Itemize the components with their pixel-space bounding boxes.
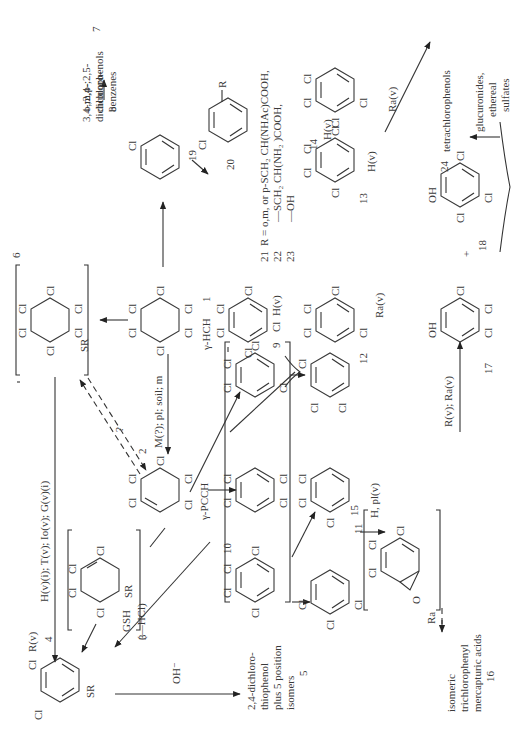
atom-cl: Cl	[214, 328, 226, 338]
text-line: sulfates	[499, 78, 511, 112]
compound-number: 22	[271, 251, 283, 262]
bracket-right	[436, 510, 440, 610]
atom-cl: Cl	[357, 328, 369, 338]
bracket-left	[68, 530, 72, 630]
compound-number: 20	[224, 159, 236, 171]
atom-cl: Cl	[44, 286, 56, 296]
atom-cl: Cl	[454, 213, 466, 223]
atom-cl: Cl	[357, 98, 369, 108]
benzene-ring-icon	[316, 68, 354, 112]
arrow-19-to-20	[192, 160, 208, 174]
plus-sign: +	[460, 251, 472, 257]
compound-number: 15	[348, 505, 360, 517]
benzene-ring-icon	[236, 468, 274, 512]
compound-1-gamma-hch: Cl Cl Cl Cl Cl Cl γ-HCH 1	[126, 286, 212, 356]
atom-r: R	[216, 80, 228, 88]
atom-cl: Cl	[32, 710, 44, 720]
pathway-canvas: Cl Cl Cl Cl Cl Cl γ-HCH 1 Cl Cl Cl Cl Cl…	[0, 0, 530, 732]
compound-number: 2	[136, 449, 148, 455]
atom-sr: SR	[122, 584, 134, 598]
brace-icon	[500, 122, 510, 252]
cyclohexane-ring-icon	[31, 298, 69, 342]
text-line: dichlorophenols	[93, 51, 105, 122]
compound-6: Cl Cl Cl Cl Cl Cl 6	[10, 252, 88, 382]
line-2-to-3	[150, 528, 165, 547]
dashed-arrow-2-6-a	[80, 380, 140, 474]
arene-oxide-ring-icon	[381, 538, 419, 582]
compound-number: 12	[357, 353, 369, 364]
reaction-label: H(v)	[365, 151, 378, 172]
text-line: mercapturic acids	[471, 634, 483, 712]
cyclohexene-ring-icon	[81, 558, 119, 602]
atom-cl: Cl	[221, 498, 233, 508]
atom-cl: Cl	[277, 474, 289, 484]
benzene-ring-icon	[311, 353, 349, 397]
atom-cl: Cl	[482, 328, 494, 338]
atom-cl: Cl	[126, 474, 138, 484]
atom-cl: Cl	[126, 498, 138, 508]
atom-oh: OH	[426, 187, 438, 203]
arrow-10c-to-11	[292, 512, 315, 557]
r-definitions: 21 R = o,m, or p-SCH₂ CH(NHAc)COOH, 22 —…	[258, 70, 296, 262]
compound-2-gamma-pcch: Cl Cl Cl Cl Cl γ-PCCH 2	[126, 449, 210, 522]
atom-cl: Cl	[301, 328, 313, 338]
compound-number: 4	[42, 636, 54, 642]
atom-cl: Cl	[296, 359, 308, 369]
atom-o: O	[410, 596, 422, 604]
compound-number: 23	[284, 251, 296, 263]
atom-cl: Cl	[329, 188, 341, 198]
compound-number: 19	[186, 150, 198, 162]
text-line: thiophenol	[258, 663, 270, 710]
atom-cl: Cl	[249, 608, 261, 618]
atom-oh: OH	[426, 322, 438, 338]
reaction-label: R(v)	[26, 632, 39, 653]
compound-number: 18	[476, 240, 488, 252]
dashed-arrow-2-6-b	[88, 378, 146, 470]
benzene-ring-icon	[311, 468, 349, 512]
reaction-label: H(v)(i); T(v); Io(v); G(v)(i)	[38, 481, 51, 602]
compound-number: 13	[357, 193, 369, 205]
benzene-ring-icon	[441, 298, 479, 342]
conjugates-text: glucuronides, ethereal sulfates	[473, 72, 511, 132]
reaction-label: H(v)	[270, 295, 283, 316]
compound-number: 17	[482, 363, 494, 375]
compound-16: isomeric trichlorophenyl mercapturic aci…	[445, 634, 496, 712]
atom-cl: Cl	[94, 608, 106, 618]
atom-cl: Cl	[44, 346, 56, 356]
arrow-3-to-4	[82, 624, 96, 652]
compound-number: 14	[307, 139, 319, 151]
text-line: 2,4-dichloro-	[245, 652, 257, 710]
r-definition-text: —SCH₂ CH(NH₂ )COOH,	[271, 104, 284, 223]
cyclohexene-ring-icon	[141, 468, 179, 512]
atom-cl: Cl	[301, 98, 313, 108]
atom-cl: Cl	[301, 168, 313, 178]
atom-cl: Cl	[336, 403, 348, 413]
benzene-ring-icon	[316, 138, 354, 182]
atom-cl: Cl	[308, 403, 320, 413]
atom-cl: Cl	[324, 620, 336, 630]
compound-number: 7	[90, 26, 102, 32]
compound-number: 1	[200, 297, 212, 303]
r-definition-text: —OH	[284, 195, 296, 223]
atom-cl: Cl	[296, 498, 308, 508]
atom-cl: Cl	[126, 304, 138, 314]
benzene-ring-icon	[229, 298, 267, 342]
atom-cl: Cl	[366, 568, 378, 578]
atom-cl: Cl	[242, 286, 254, 296]
reaction-label: Ra	[425, 612, 437, 624]
atom-cl: Cl	[482, 193, 494, 203]
atom-cl: Cl	[301, 304, 313, 314]
compound-number: 6	[10, 252, 22, 258]
question-mark: ?	[113, 427, 125, 432]
text-line: glucuronides,	[473, 72, 485, 132]
reaction-label: GSH	[120, 610, 132, 632]
atom-cl: Cl	[126, 141, 138, 151]
atom-cl: Cl	[366, 540, 378, 550]
text-line: 3,4-;2,4-;2,5-	[80, 63, 92, 122]
atom-cl: Cl	[221, 383, 233, 393]
compound-number: 10	[221, 543, 233, 555]
compound-12: Cl Cl Cl Cl 12 Ra(v)	[301, 286, 386, 364]
atom-cl: Cl	[249, 546, 261, 556]
compound-15-epoxide: O Cl Cl Cl 15	[348, 505, 440, 611]
compound-number: 9	[270, 342, 282, 348]
